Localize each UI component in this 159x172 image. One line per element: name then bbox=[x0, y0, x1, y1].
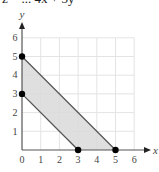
y-tick-6: 6 bbox=[13, 32, 18, 43]
y-tick-3: 3 bbox=[13, 88, 18, 99]
x-tick-6: 6 bbox=[132, 154, 137, 165]
y-tick-5: 5 bbox=[13, 51, 18, 62]
x-tick-4: 4 bbox=[94, 154, 99, 165]
y-tick-4: 4 bbox=[13, 69, 18, 80]
x-tick-1: 1 bbox=[38, 154, 43, 165]
vertex-3-0 bbox=[75, 147, 81, 153]
x-tick-5: 5 bbox=[113, 154, 118, 165]
vertex-0-3 bbox=[19, 91, 25, 97]
y-axis-arrow-icon bbox=[19, 22, 25, 29]
x-axis-label: x bbox=[152, 144, 158, 156]
vertex-5-0 bbox=[112, 147, 118, 153]
x-tick-2: 2 bbox=[57, 154, 62, 165]
feasible-region-chart: 0 1 2 3 4 5 6 1 2 3 4 5 6 x y bbox=[0, 0, 159, 172]
x-axis-arrow-icon bbox=[144, 147, 151, 153]
x-tick-0: 0 bbox=[20, 154, 25, 165]
vertex-0-5 bbox=[19, 53, 25, 59]
y-axis-label: y bbox=[19, 8, 25, 20]
x-tick-3: 3 bbox=[76, 154, 81, 165]
y-tick-1: 1 bbox=[13, 126, 18, 137]
y-tick-2: 2 bbox=[13, 107, 18, 118]
